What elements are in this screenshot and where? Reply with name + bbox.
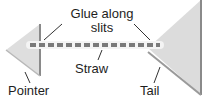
- straw-shape: [26, 41, 164, 49]
- straw-label: Straw: [75, 62, 108, 76]
- pointer-shape: [6, 24, 40, 76]
- tail-label: Tail: [140, 84, 160, 98]
- pointer-label: Pointer: [8, 84, 49, 98]
- glue-along-slits-label: Glue along slits: [62, 7, 142, 35]
- glue-label-line1: Glue along: [62, 7, 142, 21]
- glue-label-line2: slits: [62, 21, 142, 35]
